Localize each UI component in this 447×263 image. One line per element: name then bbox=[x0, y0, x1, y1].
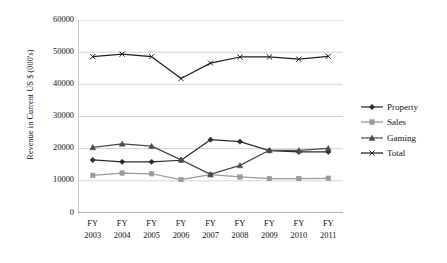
data-point-diamond bbox=[237, 139, 242, 144]
legend-label: Gaming bbox=[384, 133, 416, 143]
data-point-square bbox=[326, 176, 331, 181]
series-line bbox=[93, 54, 329, 78]
legend-item-sales[interactable]: Sales bbox=[360, 115, 446, 131]
series-gaming bbox=[90, 141, 331, 177]
x-tick-label-year: 2011 bbox=[308, 230, 348, 242]
data-point-x bbox=[178, 76, 183, 81]
legend-label: Property bbox=[384, 102, 418, 112]
y-tick-label: 50000 bbox=[30, 48, 74, 56]
legend-item-property[interactable]: Property bbox=[360, 99, 446, 115]
data-point-diamond bbox=[369, 104, 374, 109]
gridlines bbox=[78, 20, 343, 213]
legend-item-total[interactable]: Total bbox=[360, 146, 446, 162]
y-tick-label: 40000 bbox=[30, 80, 74, 88]
data-point-diamond bbox=[90, 157, 95, 162]
data-point-square bbox=[370, 120, 375, 125]
legend-label: Total bbox=[384, 148, 405, 158]
y-tick-label: 20000 bbox=[30, 144, 74, 152]
legend-square-marker-icon bbox=[360, 115, 384, 129]
data-point-square bbox=[149, 171, 154, 176]
y-tick-label: 60000 bbox=[30, 16, 74, 24]
data-point-square bbox=[267, 176, 272, 181]
data-point-square bbox=[120, 171, 125, 176]
data-point-diamond bbox=[149, 159, 154, 164]
x-tick-label-period: FY bbox=[308, 218, 348, 230]
chart-legend: PropertySalesGamingTotal bbox=[360, 99, 446, 161]
line-chart: Revenue in Current US $ (000's) 01000020… bbox=[0, 0, 447, 263]
legend-item-gaming[interactable]: Gaming bbox=[360, 130, 446, 146]
plot-svg bbox=[78, 20, 343, 213]
y-tick-label: 0 bbox=[30, 209, 74, 217]
legend-x-marker-icon bbox=[360, 146, 384, 160]
data-point-square bbox=[238, 175, 243, 180]
data-point-triangle bbox=[237, 162, 243, 167]
data-point-square bbox=[179, 177, 184, 182]
data-point-square bbox=[297, 176, 302, 181]
legend-triangle-marker-icon bbox=[360, 131, 384, 145]
data-point-diamond bbox=[119, 159, 124, 164]
x-axis-tick-labels: FY2003FY2004FY2005FY2006FY2007FY2008FY20… bbox=[78, 218, 343, 258]
series-total bbox=[90, 51, 331, 81]
plot-area bbox=[78, 20, 343, 213]
x-tick-label: FY2011 bbox=[308, 218, 348, 241]
y-tick-label: 10000 bbox=[30, 176, 74, 184]
y-axis-tick-labels: 0100002000030000400005000060000 bbox=[26, 0, 74, 263]
legend-label: Sales bbox=[384, 117, 406, 127]
data-point-square bbox=[90, 173, 95, 178]
legend-diamond-marker-icon bbox=[360, 100, 384, 114]
y-tick-label: 30000 bbox=[30, 112, 74, 120]
